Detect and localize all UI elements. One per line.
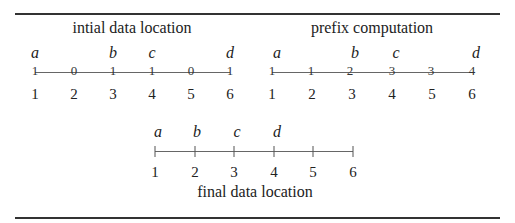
element-label: d [273,123,281,141]
flag-value: 1 [32,63,39,79]
element-label: d [472,44,480,62]
element-label: a [273,44,281,62]
position-number: 3 [348,86,356,103]
position-number: 2 [308,86,316,103]
position-number: 3 [230,164,238,181]
element-label: a [154,123,162,141]
prefix-value: 1 [269,63,276,79]
tick-mark [234,146,235,157]
element-label: c [233,123,240,141]
flag-value: 1 [149,63,156,79]
position-number: 1 [151,164,159,181]
position-number: 4 [148,86,156,103]
position-number: 5 [309,164,317,181]
element-label: c [148,44,155,62]
element-label: b [351,44,359,62]
element-label: b [193,123,201,141]
flag-value: 1 [227,63,234,79]
position-number: 2 [70,86,78,103]
position-number: 1 [268,86,276,103]
position-number: 6 [349,164,357,181]
tick-mark [155,146,156,157]
prefix-value: 2 [347,63,354,79]
element-label: a [31,44,39,62]
prefix-value: 3 [428,63,435,79]
prefix-value: 1 [308,63,315,79]
bottom-rule [15,217,500,219]
number-line [272,72,472,73]
flag-value: 1 [110,63,117,79]
prefix-value: 4 [469,63,476,79]
element-label: d [226,44,234,62]
panel-title: prefix computation [311,19,433,37]
element-label: c [392,44,399,62]
position-number: 6 [226,86,234,103]
position-number: 1 [31,86,39,103]
flag-value: 0 [71,63,78,79]
position-number: 6 [468,86,476,103]
position-number: 2 [191,164,199,181]
tick-mark [195,146,196,157]
element-label: b [109,44,117,62]
tick-mark [313,146,314,157]
panel-title: intial data location [72,19,191,37]
number-line [155,151,353,152]
position-number: 5 [187,86,195,103]
number-line [35,72,230,73]
position-number: 3 [109,86,117,103]
position-number: 4 [270,164,278,181]
flag-value: 0 [188,63,195,79]
tick-mark [274,146,275,157]
top-rule [15,13,500,15]
position-number: 5 [428,86,436,103]
tick-mark [353,146,354,157]
prefix-value: 3 [389,63,396,79]
position-number: 4 [388,86,396,103]
panel-title: final data location [197,183,313,201]
